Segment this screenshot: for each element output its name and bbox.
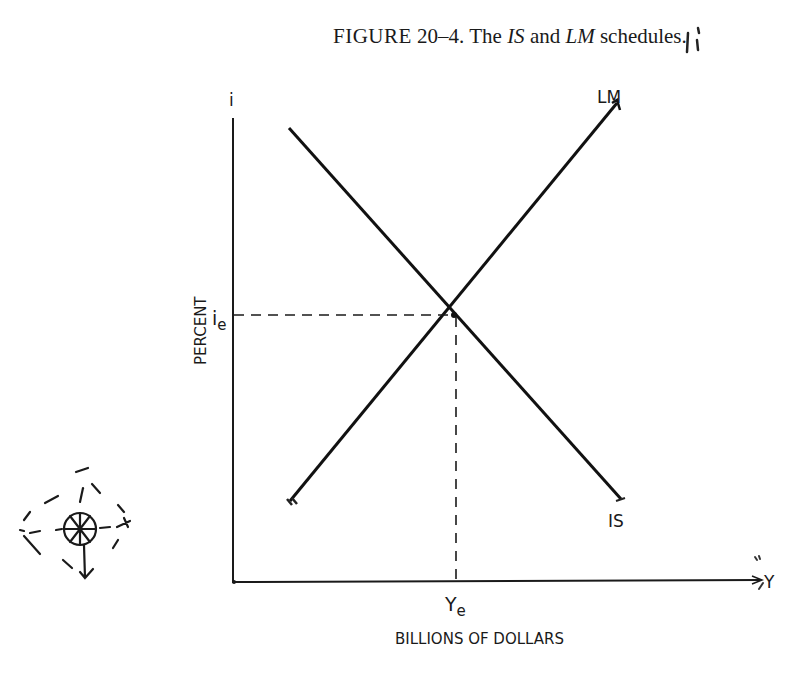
x-axis-symbol: Y bbox=[763, 572, 775, 592]
equilibrium-point bbox=[451, 312, 457, 318]
handwritten-doodle bbox=[20, 468, 130, 578]
origin-dot bbox=[232, 580, 236, 584]
ye-main: Y bbox=[444, 593, 457, 615]
x-axis-title: BILLIONS OF DOLLARS bbox=[395, 630, 564, 648]
x-axis bbox=[233, 580, 760, 582]
x-axis-marks bbox=[755, 556, 763, 589]
ye-label: Ye bbox=[444, 593, 466, 620]
ie-label: ie bbox=[212, 307, 227, 334]
y-axis-symbol: i bbox=[229, 90, 234, 110]
lm-curve-start-mark bbox=[287, 498, 297, 505]
is-curve-end-mark bbox=[616, 498, 625, 501]
is-label: IS bbox=[608, 511, 624, 531]
handwritten-marks-caption bbox=[687, 28, 699, 52]
lm-label: LM bbox=[597, 87, 621, 107]
ye-sub: e bbox=[457, 602, 466, 620]
is-lm-chart: i PERCENT ie LM IS Y Ye BILLIONS OF DOLL… bbox=[0, 0, 803, 673]
ie-sub: e bbox=[217, 316, 226, 334]
y-axis-title: PERCENT bbox=[192, 296, 210, 365]
